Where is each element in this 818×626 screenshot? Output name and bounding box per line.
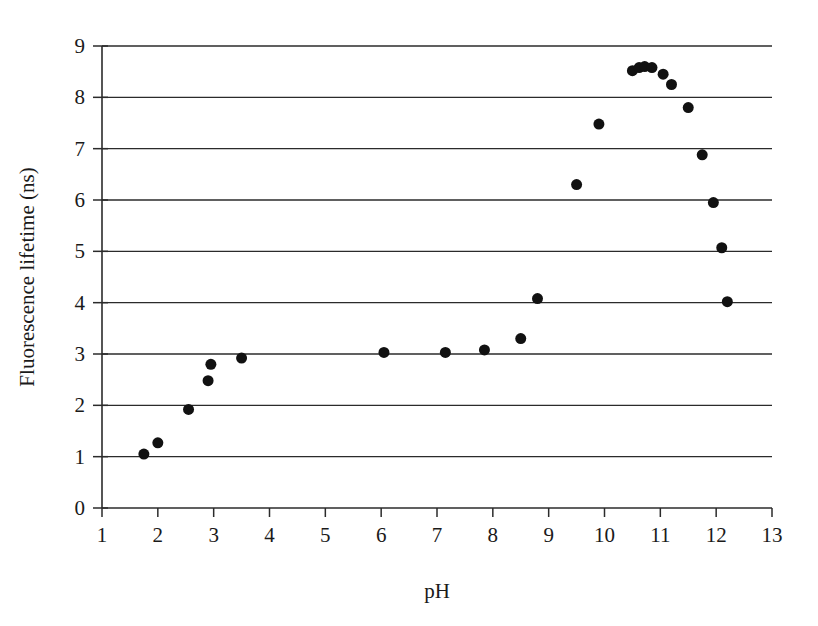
y-tick-label: 5 [75,239,86,263]
data-point [479,344,490,355]
y-tick-label: 9 [75,34,86,58]
y-tick-label: 8 [75,85,86,109]
data-points-group [138,61,732,460]
x-tick-label: 2 [153,523,164,547]
x-tick-label: 3 [208,523,219,547]
x-tick-label: 10 [594,523,615,547]
data-point [138,449,149,460]
x-tick-label: 5 [320,523,331,547]
y-tick-label: 7 [75,137,86,161]
data-point [697,149,708,160]
data-point [571,179,582,190]
y-tick-label: 2 [75,393,86,417]
data-point [593,119,604,130]
data-point [658,69,669,80]
y-tick-label: 4 [75,291,86,315]
data-point [152,437,163,448]
data-point [515,333,526,344]
scatter-plot: 12345678910111213 0123456789 pH Fluoresc… [0,0,818,626]
axis-lines-group [102,46,772,508]
x-tick-label: 12 [706,523,727,547]
data-point [666,79,677,90]
data-point [722,296,733,307]
data-point [708,197,719,208]
chart-figure: 12345678910111213 0123456789 pH Fluoresc… [0,0,818,626]
data-point [440,347,451,358]
data-point [205,359,216,370]
gridlines-group [102,46,772,457]
y-tick-label: 1 [75,445,86,469]
data-point [378,347,389,358]
x-tick-marks-group [102,508,772,517]
y-axis-label: Fluorescence lifetime (ns) [15,167,39,386]
data-point [716,242,727,253]
data-point [683,102,694,113]
y-tick-marks-group [93,46,108,508]
x-tick-label: 11 [650,523,670,547]
data-point [203,375,214,386]
x-tick-label: 1 [97,523,108,547]
x-tick-label: 9 [543,523,554,547]
x-tick-label: 13 [762,523,783,547]
y-tick-label: 3 [75,342,86,366]
y-tick-labels-group: 0123456789 [75,34,86,520]
y-tick-label: 0 [75,496,86,520]
x-tick-label: 4 [264,523,275,547]
data-point [532,293,543,304]
x-tick-label: 7 [432,523,443,547]
x-tick-labels-group: 12345678910111213 [97,523,783,547]
x-tick-label: 8 [488,523,499,547]
data-point [646,62,657,73]
x-axis-label: pH [424,579,450,603]
data-point [183,404,194,415]
data-point [236,353,247,364]
x-tick-label: 6 [376,523,387,547]
y-tick-label: 6 [75,188,86,212]
